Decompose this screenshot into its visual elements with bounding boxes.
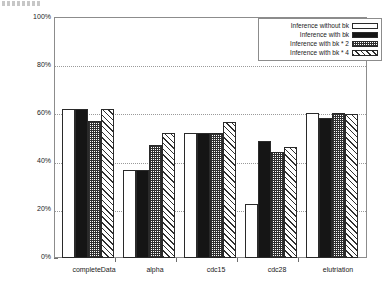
bar-cdc15-inference-with-bk-4 bbox=[223, 122, 236, 258]
x-tick-label-alpha: alpha bbox=[120, 265, 190, 274]
bar-elutriation-inference-with-bk-4 bbox=[345, 114, 358, 258]
bar-completeData-inference-with-bk-2 bbox=[88, 121, 101, 258]
legend-label-inference-with-bk: Inference with bk bbox=[300, 30, 349, 39]
bar-alpha-inference-with-bk bbox=[136, 170, 149, 258]
bar-cdc28-inference-with-bk-4 bbox=[284, 147, 297, 258]
bar-alpha-inference-with-bk-2 bbox=[149, 145, 162, 258]
legend: Inference without bk Inference with bk I… bbox=[258, 18, 382, 61]
bar-cdc28-inference-with-bk bbox=[258, 141, 271, 258]
legend-swatch-cross-hatch-icon bbox=[352, 41, 378, 47]
x-tick-mark-4 bbox=[298, 258, 299, 262]
legend-item-inference-with-bk-4: Inference with bk * 4 bbox=[262, 48, 378, 57]
bar-group-alpha bbox=[123, 17, 179, 258]
bar-cdc28-inference-with-bk-2 bbox=[271, 152, 284, 258]
x-tick-label-completeData: completeData bbox=[59, 265, 129, 274]
bar-alpha-inference-with-bk-4 bbox=[162, 133, 175, 258]
legend-item-inference-with-bk-2: Inference with bk * 2 bbox=[262, 39, 378, 48]
bar-elutriation-inference-with-bk bbox=[319, 118, 332, 258]
y-tick-label-100: 100% bbox=[33, 13, 51, 21]
bar-cdc15-inference-without-bk bbox=[184, 133, 197, 258]
bar-group-cdc15 bbox=[184, 17, 240, 258]
bar-completeData-inference-with-bk-4 bbox=[101, 109, 114, 258]
legend-swatch-solid-icon bbox=[352, 32, 378, 38]
y-tick-mark-0 bbox=[54, 258, 58, 259]
x-tick-label-cdc28: cdc28 bbox=[242, 265, 312, 274]
legend-item-inference-with-bk: Inference with bk bbox=[262, 30, 378, 39]
legend-swatch-diagonal-hatch-icon bbox=[352, 50, 378, 56]
bar-cdc15-inference-with-bk bbox=[197, 133, 210, 258]
y-tick-label-40: 40% bbox=[37, 157, 51, 165]
y-tick-label-20: 20% bbox=[37, 205, 51, 213]
y-tick-label-0: 0% bbox=[41, 253, 51, 261]
bar-elutriation-inference-with-bk-2 bbox=[332, 113, 345, 258]
x-tick-label-cdc15: cdc15 bbox=[181, 265, 251, 274]
bar-completeData-inference-with-bk bbox=[75, 109, 88, 258]
bar-cdc15-inference-with-bk-2 bbox=[210, 133, 223, 258]
x-tick-mark-1 bbox=[115, 258, 116, 262]
bar-group-completeData bbox=[62, 17, 118, 258]
bar-cdc28-inference-without-bk bbox=[245, 204, 258, 258]
x-tick-label-elutriation: elutriation bbox=[303, 265, 373, 274]
legend-label-inference-with-bk-2: Inference with bk * 2 bbox=[290, 39, 349, 48]
y-tick-label-60: 60% bbox=[37, 109, 51, 117]
y-tick-label-80: 80% bbox=[37, 61, 51, 69]
legend-swatch-empty-icon bbox=[352, 23, 378, 29]
legend-label-inference-with-bk-4: Inference with bk * 4 bbox=[290, 48, 349, 57]
bar-alpha-inference-without-bk bbox=[123, 170, 136, 258]
legend-item-inference-without-bk: Inference without bk bbox=[262, 21, 378, 30]
scan-artifact bbox=[2, 1, 42, 6]
legend-label-inference-without-bk: Inference without bk bbox=[291, 21, 349, 30]
bar-completeData-inference-without-bk bbox=[62, 109, 75, 258]
x-tick-mark-3 bbox=[237, 258, 238, 262]
similarity-bar-chart: Similarity 0% 20% 40% 60% 80% 100% bbox=[0, 0, 385, 291]
x-tick-mark-2 bbox=[176, 258, 177, 262]
bar-elutriation-inference-without-bk bbox=[306, 113, 319, 258]
